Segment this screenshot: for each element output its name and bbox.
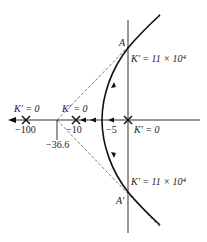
pole-m100-gain-label: K′ = 0 [13, 103, 40, 114]
tick-label-m10: −10 [66, 124, 82, 135]
root-locus-svg: K′ = 0 K′ = 0 K′ = 0 −100 −10 −5 −36.6 A… [0, 0, 207, 242]
locus-arrow-icon [108, 118, 114, 123]
tick-label-m5: −5 [106, 124, 117, 135]
locus-arrow-icon [90, 118, 96, 123]
locus-branch-lower [102, 120, 160, 225]
locus-arrow-icon [80, 118, 86, 123]
pole-m10-gain-label: K′ = 0 [61, 103, 88, 114]
locus-branch-upper [102, 15, 160, 120]
point-a-prime-label: A′ [115, 195, 125, 206]
gain-a-label: K′ = 11 × 10⁴ [130, 53, 187, 64]
locus-arrow-down-icon [111, 152, 116, 158]
gain-a-prime-label: K′ = 11 × 10⁴ [130, 176, 187, 187]
real-axis-left-arrow-icon [8, 117, 16, 123]
tick-label-m100: −100 [15, 124, 36, 135]
point-a-label: A [118, 37, 126, 48]
tick-label-breakaway: −36.6 [46, 139, 69, 150]
locus-arrow-up-icon [111, 82, 116, 88]
root-locus-diagram: K′ = 0 K′ = 0 K′ = 0 −100 −10 −5 −36.6 A… [0, 0, 207, 242]
pole-0-gain-label: K′ = 0 [133, 124, 160, 135]
